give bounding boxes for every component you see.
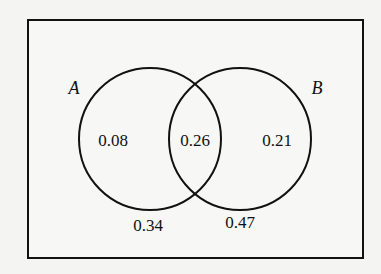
set-label-b: B <box>312 79 323 97</box>
label-below-a: 0.34 <box>133 217 163 234</box>
set-label-a: A <box>69 79 80 97</box>
label-below-b: 0.47 <box>225 214 255 231</box>
region-b-only-value: 0.21 <box>262 132 292 149</box>
region-a-and-b-value: 0.26 <box>180 132 210 149</box>
region-a-only-value: 0.08 <box>98 132 128 149</box>
